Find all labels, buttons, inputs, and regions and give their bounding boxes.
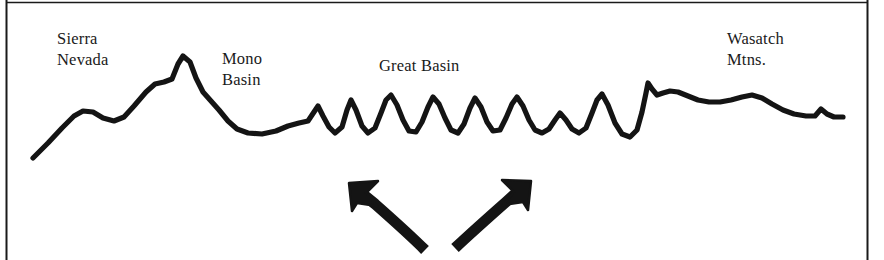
cross-section-figure: Sierra Nevada Mono Basin Great Basin Was… bbox=[0, 0, 884, 260]
label-sierra-nevada: Sierra Nevada bbox=[57, 28, 109, 70]
label-wasatch-mtns: Wasatch Mtns. bbox=[727, 28, 784, 70]
extension-arrow-right bbox=[455, 180, 531, 248]
label-mono-basin: Mono Basin bbox=[222, 48, 262, 90]
label-great-basin: Great Basin bbox=[379, 55, 460, 76]
extension-arrow-left bbox=[349, 181, 425, 250]
